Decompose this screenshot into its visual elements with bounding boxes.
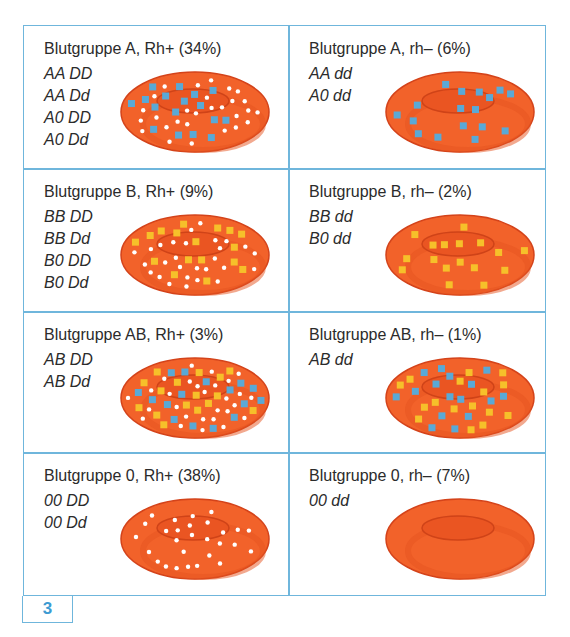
antigen-b-marker [132, 239, 139, 246]
antigen-d-marker [247, 528, 251, 532]
antigen-d-marker [174, 566, 178, 570]
blood-group-cell: Blutgruppe B, rh– (2%)BB ddB0 dd [289, 169, 553, 311]
antigen-a-marker [210, 425, 217, 432]
antigen-d-marker [246, 108, 250, 112]
antigen-d-marker [209, 510, 213, 514]
antigen-d-marker [167, 282, 171, 286]
genotype: AA Dd [44, 85, 92, 107]
antigen-d-marker [148, 270, 152, 274]
antigen-a-marker [222, 117, 229, 124]
antigen-d-marker [232, 542, 236, 546]
antigen-b-marker [217, 374, 224, 381]
antigen-b-marker [407, 376, 414, 383]
antigen-d-marker [176, 528, 180, 532]
antigen-d-marker [147, 550, 151, 554]
antigen-d-marker [205, 520, 209, 524]
genotype: 00 dd [309, 490, 349, 512]
blood-group-cell: Blutgruppe AB, rh– (1%)AB dd [289, 312, 553, 452]
figure-number: 3 [22, 596, 73, 623]
antigen-b-marker [158, 227, 165, 234]
antigen-b-marker [495, 249, 502, 256]
antigen-d-marker [185, 122, 189, 126]
genotype: BB Dd [44, 228, 93, 250]
antigen-d-marker [147, 407, 151, 411]
antigen-a-marker [442, 81, 449, 88]
antigen-a-marker [476, 89, 483, 96]
antigen-a-marker [181, 368, 188, 375]
antigen-a-marker [181, 98, 188, 105]
antigen-d-marker [156, 559, 160, 563]
antigen-b-marker [469, 402, 476, 409]
antigen-d-marker [213, 256, 217, 260]
antigen-d-marker [191, 514, 195, 518]
antigen-a-marker [164, 401, 171, 408]
genotype: AB DD [44, 349, 93, 371]
antigen-b-marker [456, 240, 463, 247]
antigen-d-marker [196, 83, 200, 87]
antigen-a-marker [458, 88, 465, 95]
antigen-a-marker [414, 102, 421, 109]
genotype: 00 Dd [44, 512, 89, 534]
antigen-d-marker [139, 118, 143, 122]
blood-group-title: Blutgruppe AB, rh– (1%) [309, 326, 482, 344]
antigen-b-marker [174, 379, 181, 386]
antigen-b-marker [141, 379, 148, 386]
antigen-d-marker [188, 523, 192, 527]
antigen-a-marker [393, 393, 400, 400]
antigen-d-marker [249, 396, 253, 400]
antigen-a-marker [415, 130, 422, 137]
genotype-list: AB DDAB Dd [44, 349, 93, 393]
antigen-a-marker [168, 369, 175, 376]
antigen-a-marker [457, 396, 464, 403]
blood-group-title: Blutgruppe A, Rh+ (34%) [44, 40, 221, 58]
genotype: B0 dd [309, 228, 353, 250]
antigen-d-marker [143, 262, 147, 266]
antigen-b-marker [231, 244, 238, 251]
antigen-b-marker [480, 388, 487, 395]
antigen-d-marker [140, 129, 144, 133]
antigen-a-marker [175, 132, 182, 139]
antigen-d-marker [222, 128, 226, 132]
genotype-list: 00 dd [309, 490, 349, 512]
antigen-d-marker [141, 108, 145, 112]
genotype-list: AA DDAA DdA0 DDA0 Dd [44, 63, 92, 151]
antigen-d-marker [252, 267, 256, 271]
antigen-d-marker [175, 119, 179, 123]
antigen-b-marker [499, 369, 506, 376]
antigen-d-marker [149, 388, 153, 392]
antigen-d-marker [162, 84, 166, 88]
genotype: B0 DD [44, 250, 93, 272]
antigen-a-marker [142, 96, 149, 103]
antigen-b-marker [214, 392, 221, 399]
antigen-a-marker [486, 94, 493, 101]
antigen-a-marker [227, 386, 234, 393]
antigen-d-marker [132, 250, 136, 254]
antigen-a-marker [211, 116, 218, 123]
antigen-a-marker [433, 381, 440, 388]
antigen-d-marker [194, 111, 198, 115]
antigen-a-marker [438, 412, 445, 419]
antigen-d-marker [246, 120, 250, 124]
blood-group-cell: Blutgruppe AB, Rh+ (3%)AB DDAB Dd [24, 312, 288, 452]
antigen-d-marker [164, 529, 168, 533]
antigen-a-marker [497, 87, 504, 94]
antigen-d-marker [255, 110, 259, 114]
antigen-b-marker [226, 367, 233, 374]
antigen-d-marker [230, 99, 234, 103]
antigen-d-marker [149, 247, 153, 251]
antigen-d-marker [234, 125, 238, 129]
antigen-b-marker [193, 392, 200, 399]
antigen-b-marker [226, 227, 233, 234]
antigen-a-marker [500, 393, 507, 400]
antigen-d-marker [157, 275, 161, 279]
antigen-b-marker [185, 256, 192, 263]
antigen-b-marker [203, 277, 210, 284]
antigen-b-marker [504, 412, 511, 419]
blood-group-title: Blutgruppe B, rh– (2%) [309, 183, 472, 201]
antigen-a-marker [446, 393, 453, 400]
antigen-b-marker [192, 238, 199, 245]
antigen-a-marker [162, 93, 169, 100]
antigen-d-marker [207, 553, 211, 557]
antigen-b-marker [471, 264, 478, 271]
antigen-b-marker [250, 407, 257, 414]
